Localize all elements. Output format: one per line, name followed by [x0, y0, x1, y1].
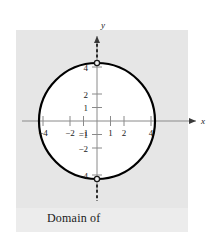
y-tick-label-1: 1 [84, 103, 89, 113]
figure-domain-of-circle: −4 −2 −1 1 2 4 4 2 1 −1 −2 −4 x y Domain… [0, 0, 214, 232]
y-tick-label--2: −2 [78, 144, 88, 154]
x-tick-label--2: −2 [65, 128, 75, 138]
x-tick-label--4: −4 [38, 128, 48, 138]
x-tick-label-4: 4 [149, 128, 154, 138]
open-point-marker-bottom [94, 176, 99, 181]
open-point-marker-top [94, 60, 99, 65]
y-tick-label-2: 2 [84, 90, 89, 100]
y-tick-label--1: −1 [78, 130, 88, 140]
y-axis-label: y [100, 20, 105, 30]
x-tick-label-2: 2 [122, 128, 127, 138]
y-tick-label-4: 4 [84, 63, 89, 73]
figure-caption: Domain of [47, 211, 187, 226]
x-axis-arrowhead [189, 118, 196, 124]
x-tick-label-1: 1 [108, 128, 113, 138]
x-axis-label: x [200, 116, 205, 126]
y-tick-label--4: −4 [78, 171, 88, 181]
plot-canvas: −4 −2 −1 1 2 4 4 2 1 −1 −2 −4 x y [0, 0, 214, 232]
y-axis-arrowhead [94, 36, 100, 43]
